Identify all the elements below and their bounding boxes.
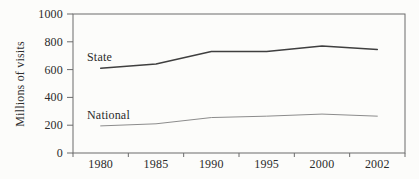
y-axis-tick-label: 800: [44, 35, 63, 49]
x-axis-tick-label: 2002: [365, 157, 390, 171]
series-line-national: [101, 114, 378, 126]
x-axis-tick-label: 2000: [310, 157, 335, 171]
x-axis-tick-label: 1995: [254, 157, 279, 171]
series-label-state: State: [87, 50, 112, 64]
series-line-state: [101, 46, 378, 68]
plot-border: [73, 14, 405, 153]
y-axis-tick-label: 1000: [38, 7, 63, 21]
x-axis-tick-label: 1980: [88, 157, 113, 171]
series-label-national: National: [87, 108, 130, 122]
y-axis-tick-label: 600: [44, 63, 63, 77]
y-axis-tick-label: 0: [57, 146, 63, 160]
x-axis-tick-label: 1985: [144, 157, 169, 171]
y-axis-tick-label: 200: [44, 118, 63, 132]
x-axis-tick-label: 1990: [199, 157, 224, 171]
line-chart: 0200400600800100019801985199019952000200…: [0, 0, 419, 179]
y-axis-tick-label: 400: [44, 90, 63, 104]
chart-figure: Millions of visits 020040060080010001980…: [0, 0, 419, 179]
